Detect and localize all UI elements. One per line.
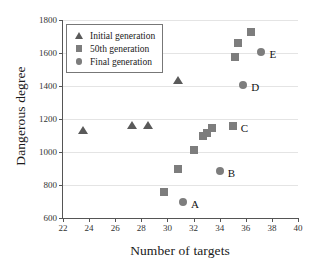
y-tick-mark: [59, 185, 63, 186]
y-tick-mark: [59, 119, 63, 120]
y-tick-label: 800: [44, 180, 58, 190]
legend-label: Initial generation: [90, 31, 155, 41]
data-point-triangle: [127, 121, 137, 129]
x-tick-mark: [246, 218, 247, 222]
y-axis-title: Dangerous degree: [13, 41, 29, 191]
point-annotation-B: B: [228, 167, 235, 179]
data-point-triangle: [143, 121, 153, 129]
data-point-circle: [179, 198, 187, 206]
data-point-square: [229, 122, 237, 130]
x-tick-label: 24: [85, 223, 94, 233]
x-tick-label: 28: [137, 223, 146, 233]
legend-label: Final generation: [90, 57, 152, 67]
x-tick-label: 26: [111, 223, 120, 233]
x-tick-mark: [141, 218, 142, 222]
data-point-square: [247, 28, 255, 36]
x-tick-label: 22: [59, 223, 68, 233]
y-gridline: [63, 185, 298, 186]
x-tick-label: 40: [294, 223, 303, 233]
x-tick-mark: [220, 218, 221, 222]
y-tick-mark: [59, 53, 63, 54]
legend-square-icon: [72, 45, 86, 52]
data-point-square: [234, 39, 242, 47]
y-tick-label: 1000: [39, 147, 57, 157]
x-tick-mark: [63, 218, 64, 222]
y-tick-mark: [59, 20, 63, 21]
legend-circle-icon: [72, 58, 86, 65]
data-point-square: [190, 146, 198, 154]
data-point-circle: [216, 167, 224, 175]
x-tick-label: 32: [189, 223, 198, 233]
x-tick-mark: [194, 218, 195, 222]
data-point-circle: [239, 81, 247, 89]
legend-label: 50th generation: [90, 44, 149, 54]
y-gridline: [63, 152, 298, 153]
data-point-circle: [257, 48, 265, 56]
scatter-chart-figure: Dangerous degree Number of targets 60080…: [0, 0, 318, 270]
legend-triangle-icon: [72, 32, 86, 39]
y-tick-mark: [59, 86, 63, 87]
y-tick-label: 1800: [39, 15, 57, 25]
data-point-square: [231, 53, 239, 61]
data-point-square: [174, 165, 182, 173]
y-tick-label: 1200: [39, 114, 57, 124]
x-tick-mark: [272, 218, 273, 222]
x-tick-mark: [167, 218, 168, 222]
y-tick-label: 1400: [39, 81, 57, 91]
data-point-square: [208, 124, 216, 132]
point-annotation-D: D: [251, 81, 259, 93]
y-gridline: [63, 119, 298, 120]
point-annotation-E: E: [269, 48, 276, 60]
x-tick-label: 36: [241, 223, 250, 233]
y-tick-mark: [59, 152, 63, 153]
y-gridline: [63, 20, 298, 21]
legend-item-2[interactable]: 50th generation: [72, 42, 155, 55]
x-tick-label: 34: [215, 223, 224, 233]
data-point-square: [160, 188, 168, 196]
x-axis-title: Number of targets: [62, 243, 298, 259]
chart-legend: Initial generation50th generationFinal g…: [66, 24, 163, 73]
point-annotation-C: C: [241, 122, 248, 134]
x-tick-mark: [115, 218, 116, 222]
legend-item-1[interactable]: Initial generation: [72, 29, 155, 42]
data-point-triangle: [173, 76, 183, 84]
x-tick-mark: [298, 218, 299, 222]
x-tick-mark: [89, 218, 90, 222]
y-tick-label: 600: [44, 213, 58, 223]
legend-item-3[interactable]: Final generation: [72, 55, 155, 68]
x-tick-label: 38: [267, 223, 276, 233]
point-annotation-A: A: [191, 198, 199, 210]
y-gridline: [63, 86, 298, 87]
data-point-triangle: [78, 126, 88, 134]
y-tick-label: 1600: [39, 48, 57, 58]
x-tick-label: 30: [163, 223, 172, 233]
